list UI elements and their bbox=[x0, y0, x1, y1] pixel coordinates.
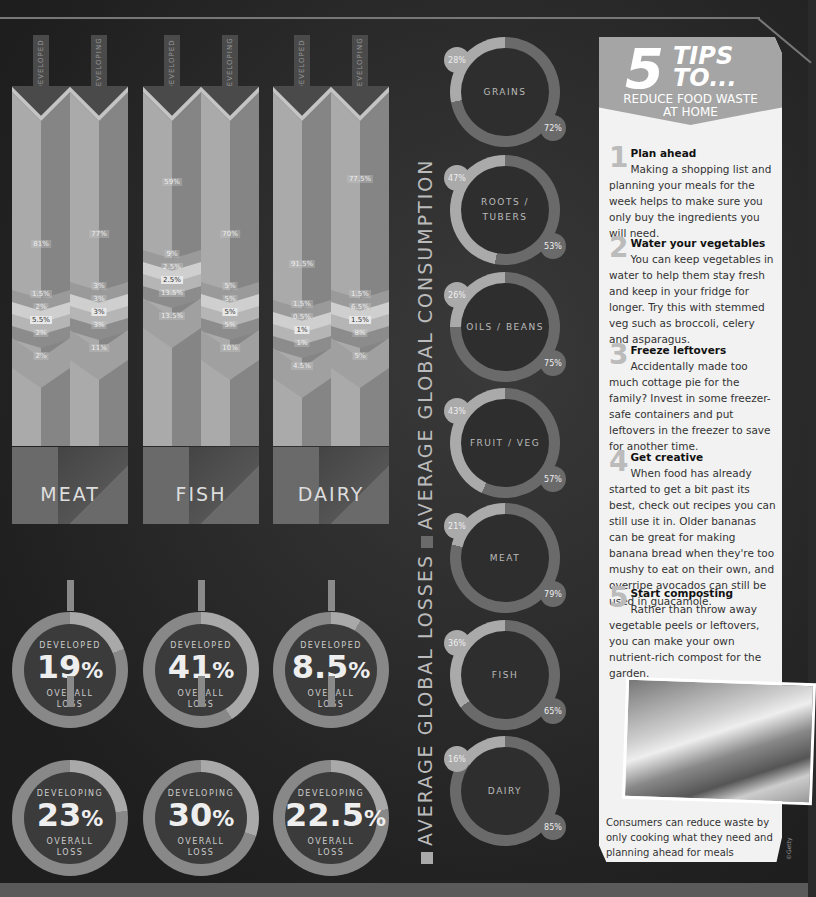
column-value: 77.5% bbox=[347, 175, 373, 183]
category-label: MEAT bbox=[12, 483, 128, 505]
segment-value: 2% bbox=[33, 329, 48, 337]
losses-swatch bbox=[421, 852, 433, 864]
segment-value: 5% bbox=[222, 295, 237, 303]
segment-value: 4.5% bbox=[291, 362, 313, 370]
segment-value: 3% bbox=[91, 321, 106, 329]
loss-bubble: 21% bbox=[444, 513, 470, 539]
loss-bubble: 16% bbox=[444, 746, 470, 772]
donut-oils-beans: OILS / BEANS 26% 75% bbox=[450, 272, 560, 382]
loss-bubble: 36% bbox=[444, 630, 470, 656]
ring-developed-meat: DEVELOPED19%OVERALLLOSS bbox=[12, 612, 128, 728]
photo-credit: ©Getty bbox=[785, 837, 792, 860]
column-value: 77% bbox=[89, 230, 109, 238]
segment-value: 3% bbox=[91, 308, 106, 316]
column-value: 59% bbox=[162, 178, 182, 186]
donut-fruit-veg: FRUIT / VEG 43% 57% bbox=[450, 388, 560, 498]
ring-stem bbox=[67, 676, 74, 707]
column-value: 70% bbox=[220, 230, 240, 238]
segment-value: 1% bbox=[294, 326, 309, 334]
loss-bubble: 43% bbox=[444, 398, 470, 424]
segment-value: 5% bbox=[352, 352, 367, 360]
donut-dairy: DAIRY 16% 85% bbox=[450, 736, 560, 846]
segment-value: 2.5% bbox=[161, 263, 183, 271]
segment-value: 1.5% bbox=[349, 290, 371, 298]
consumption-bubble: 57% bbox=[540, 466, 566, 492]
ring-developing-dairy: DEVELOPING22.5%OVERALLLOSS bbox=[273, 760, 389, 876]
tip-5: 5Start compostingRather than throw away … bbox=[609, 585, 777, 681]
segment-value: 2.5% bbox=[161, 276, 183, 284]
category-label: DAIRY bbox=[273, 483, 389, 505]
top-border-line bbox=[0, 17, 760, 19]
photo-caption: Consumers can reduce waste by only cooki… bbox=[606, 815, 781, 860]
legend-losses: AVERAGE GLOBAL LOSSES bbox=[414, 554, 436, 846]
consumption-bubble: 53% bbox=[540, 233, 566, 259]
donut-legend: AVERAGE GLOBAL LOSSESAVERAGE GLOBAL CONS… bbox=[414, 159, 436, 870]
tip-1: 1Plan aheadMaking a shopping list and pl… bbox=[609, 145, 777, 241]
ring-stem bbox=[328, 580, 335, 611]
segment-value: 2% bbox=[33, 303, 48, 311]
segment-value: 1.5% bbox=[30, 290, 52, 298]
tip-3: 3Freeze leftoversAccidentally made too m… bbox=[609, 342, 777, 454]
donut-roots-: ROOTS /TUBERS 47% 53% bbox=[450, 155, 560, 265]
column-shaft bbox=[331, 86, 389, 446]
tips-number: 5 bbox=[625, 41, 664, 97]
ring-developed-fish: DEVELOPED41%OVERALLLOSS bbox=[143, 612, 259, 728]
segment-value: 10% bbox=[220, 344, 240, 352]
segment-value: 13.5% bbox=[159, 289, 185, 297]
segment-value: 2% bbox=[33, 352, 48, 360]
segment-value: 6.5% bbox=[349, 303, 371, 311]
consumption-bubble: 85% bbox=[540, 814, 566, 840]
segment-value: 0.5% bbox=[291, 313, 313, 321]
donut-fish: FISH 36% 65% bbox=[450, 620, 560, 730]
legend-consumption: AVERAGE GLOBAL CONSUMPTION bbox=[414, 159, 436, 531]
loss-bubble: 26% bbox=[444, 282, 470, 308]
ring-stem bbox=[198, 580, 205, 611]
segment-value: 3% bbox=[91, 295, 106, 303]
loss-bubble: 47% bbox=[444, 165, 470, 191]
tips-subtitle: REDUCE FOOD WASTEAT HOME bbox=[599, 93, 782, 119]
segment-value: 1% bbox=[294, 339, 309, 347]
segment-value: 9% bbox=[164, 250, 179, 258]
tip-2: 2Water your vegetablesYou can keep veget… bbox=[609, 235, 777, 347]
segment-value: 5.5% bbox=[30, 316, 52, 324]
column-shaft bbox=[201, 86, 259, 446]
ring-stem bbox=[67, 580, 74, 611]
segment-value: 13.5% bbox=[159, 312, 185, 320]
category-block-fish: FISH bbox=[143, 447, 259, 524]
consumption-bubble: 72% bbox=[540, 115, 566, 141]
segment-value: 5% bbox=[222, 282, 237, 290]
bottom-bar bbox=[0, 883, 808, 897]
consumption-swatch bbox=[421, 536, 433, 548]
loss-bubble: 28% bbox=[444, 47, 470, 73]
segment-value: 1.5% bbox=[349, 316, 371, 324]
category-block-dairy: DAIRY bbox=[273, 447, 389, 524]
column-value: 81% bbox=[31, 240, 51, 248]
ring-developing-meat: DEVELOPING23%OVERALLLOSS bbox=[12, 760, 128, 876]
column-shaft bbox=[12, 86, 70, 446]
ring-stem bbox=[328, 676, 335, 707]
ring-stem bbox=[198, 676, 205, 707]
ring-developed-dairy: DEVELOPED8.5%OVERALLLOSS bbox=[273, 612, 389, 728]
segment-value: 5% bbox=[222, 308, 237, 316]
segment-value: 11% bbox=[89, 344, 109, 352]
consumption-bubble: 65% bbox=[540, 698, 566, 724]
tips-header: 5 TIPSTO... REDUCE FOOD WASTEAT HOME bbox=[599, 37, 782, 125]
consumption-bubble: 79% bbox=[540, 581, 566, 607]
column-value: 91.5% bbox=[289, 260, 315, 268]
tips-title: TIPSTO... bbox=[673, 45, 737, 89]
donut-meat: MEAT 21% 79% bbox=[450, 503, 560, 613]
ring-developing-fish: DEVELOPING30%OVERALLLOSS bbox=[143, 760, 259, 876]
donut-grains: GRAINS 28% 72% bbox=[450, 37, 560, 147]
food-photo bbox=[622, 677, 816, 806]
segment-value: 1.5% bbox=[291, 300, 313, 308]
segment-value: 3% bbox=[91, 282, 106, 290]
category-label: FISH bbox=[143, 483, 259, 505]
segment-value: 8% bbox=[352, 329, 367, 337]
category-block-meat: MEAT bbox=[12, 447, 128, 524]
consumption-bubble: 75% bbox=[540, 350, 566, 376]
segment-value: 5% bbox=[222, 321, 237, 329]
column-shaft bbox=[70, 86, 128, 446]
